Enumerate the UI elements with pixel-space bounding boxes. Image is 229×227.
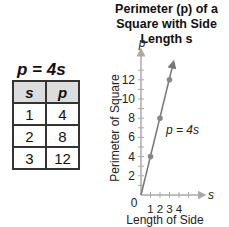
y-tick-label: 12: [122, 73, 136, 87]
y-tick-label: 6: [128, 130, 135, 144]
line-chart: p s 0 24681012 1234 Perimeter of Square …: [0, 0, 229, 227]
origin-label: 0: [131, 196, 138, 210]
y-tick-label: 10: [122, 92, 136, 106]
y-axis-var: p: [138, 36, 146, 50]
data-point: [167, 77, 173, 83]
y-tick-label: 8: [128, 111, 135, 125]
y-tick-label: 4: [128, 150, 135, 164]
data-point: [157, 115, 163, 121]
x-axis-label: Length of Side: [126, 213, 204, 227]
line-annotation: p = 4s: [165, 123, 199, 137]
y-axis: [138, 52, 144, 195]
y-tick-label: 2: [128, 169, 135, 183]
data-point: [148, 154, 154, 160]
x-axis-var: s: [208, 188, 214, 202]
x-axis: [141, 192, 202, 198]
y-axis-label: Perimeter of Square: [108, 74, 122, 182]
